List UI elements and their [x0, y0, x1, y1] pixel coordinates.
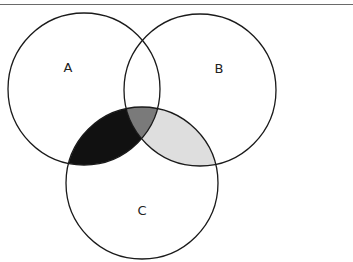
label-b: B: [215, 61, 224, 76]
label-a: A: [64, 60, 73, 75]
venn-diagram: A B C: [0, 0, 353, 262]
label-c: C: [137, 203, 146, 218]
